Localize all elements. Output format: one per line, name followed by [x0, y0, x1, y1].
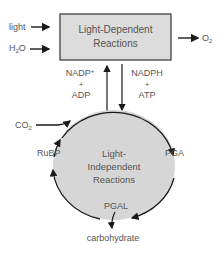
- co2-arrow: [36, 121, 70, 125]
- cycle-label-line2: Independent: [88, 161, 141, 172]
- pga-label: PGA: [165, 148, 184, 158]
- box-label-line2: Reactions: [93, 38, 137, 49]
- adp-label: ADP: [72, 90, 91, 100]
- water-label: H2O: [9, 43, 26, 54]
- carbohydrate-label: carbohydrate: [87, 233, 140, 243]
- box-label-line1: Light-Dependent: [79, 24, 153, 35]
- nadp-label: NADP+: [66, 68, 95, 78]
- light-label: light: [9, 22, 26, 32]
- pgal-label: PGAL: [104, 201, 128, 211]
- left-plus: +: [79, 80, 84, 89]
- co2-label: CO2: [15, 120, 33, 131]
- nadph-label: NADPH: [131, 68, 163, 78]
- right-plus: +: [145, 80, 150, 89]
- atp-label: ATP: [139, 90, 156, 100]
- cycle-label-line1: Light-: [102, 148, 126, 159]
- rubp-label: RuBP: [37, 148, 61, 158]
- photosynthesis-diagram: Light-Dependent Reactions light H2O O2 N…: [0, 0, 222, 253]
- cycle-label-line3: Reactions: [93, 174, 135, 185]
- light-dependent-box: [60, 14, 171, 60]
- oxygen-label: O2: [202, 33, 213, 44]
- diagram-canvas: Light-Dependent Reactions light H2O O2 N…: [0, 0, 222, 253]
